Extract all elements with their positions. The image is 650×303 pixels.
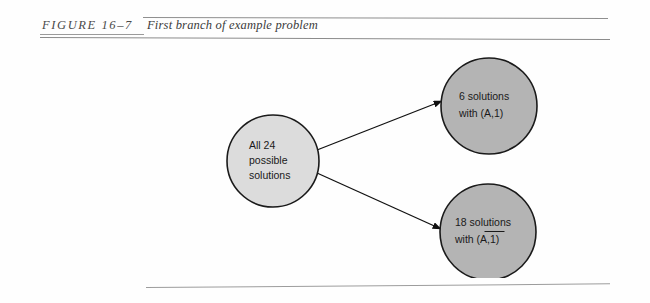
node-branch-a-prefix: with (: [458, 107, 485, 119]
figure-page: FIGURE 16–7 First branch of example prob…: [0, 0, 650, 303]
node-source-line1: All 24: [249, 139, 275, 151]
node-branch-not-a-line2: with (A,1): [454, 233, 499, 245]
node-branch-not-a[interactable]: 18 solutions with (A,1): [440, 184, 536, 278]
node-source-line3: solutions: [249, 169, 290, 181]
figure-label-underline: [40, 34, 144, 35]
node-source-line2: possible: [249, 154, 288, 166]
node-branch-a-line1: 6 solutions: [459, 90, 509, 102]
edge-to-branch-a: [317, 101, 442, 150]
node-branch-a-symbol: A,1: [484, 107, 500, 119]
branch-diagram: All 24 possible solutions 6 solutions wi…: [0, 40, 650, 278]
footer-rule: [146, 283, 610, 288]
edge-to-branch-not-a: [317, 173, 441, 229]
node-branch-not-a-symbol: A,1: [480, 233, 496, 245]
node-branch-not-a-suffix: ): [496, 233, 500, 245]
node-branch-not-a-prefix: with (: [454, 233, 481, 245]
node-branch-a-suffix: ): [500, 107, 504, 119]
node-branch-a-circle: [441, 58, 537, 154]
figure-caption: First branch of example problem: [147, 18, 318, 33]
node-branch-a-line2: with (A,1): [458, 107, 503, 119]
node-branch-a[interactable]: 6 solutions with (A,1): [441, 58, 537, 154]
node-source[interactable]: All 24 possible solutions: [227, 115, 319, 207]
node-branch-not-a-line1: 18 solutions: [455, 216, 511, 228]
figure-label: FIGURE 16–7: [42, 18, 133, 33]
